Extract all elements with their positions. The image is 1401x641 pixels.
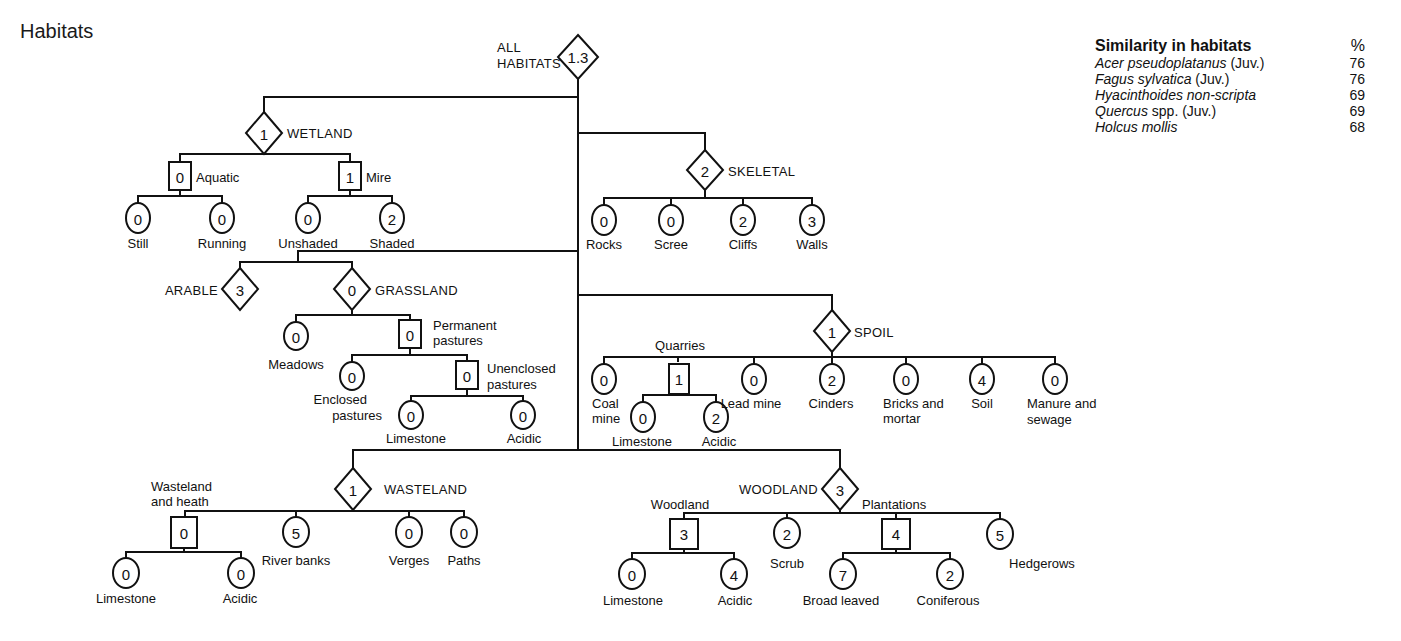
node-value: 3: [836, 482, 844, 499]
node-label: WASTELAND: [384, 482, 467, 497]
node-value: 0: [460, 525, 468, 542]
node-label: Cinders: [809, 396, 854, 411]
node-value: 5: [292, 525, 300, 542]
node-label: Acidic: [702, 434, 737, 449]
node-grass-limestone: 0Limestone: [386, 401, 446, 446]
node-value: 0: [406, 327, 414, 344]
node-value: 2: [946, 567, 954, 584]
node-value: 2: [739, 213, 747, 230]
node-label: Woodland: [651, 497, 709, 512]
node-value: 1: [349, 482, 357, 499]
node-value: 0: [122, 566, 130, 583]
node-value: 1: [260, 126, 268, 143]
node-value: 0: [628, 567, 636, 584]
node-value: 0: [902, 372, 910, 389]
node-label: Limestone: [603, 593, 663, 608]
node-label: Mire: [366, 170, 391, 185]
node-still: 0Still: [126, 203, 150, 251]
node-unshaded: 0Unshaded: [278, 203, 337, 251]
node-scree: 0Scree: [654, 205, 688, 252]
node-arable: 3 ARABLE: [165, 268, 258, 310]
node-label: GRASSLAND: [375, 283, 458, 298]
node-skeletal: 2 SKELETAL: [687, 150, 795, 190]
node-value: 0: [600, 372, 608, 389]
node-verges: 0Verges: [389, 517, 430, 568]
node-label: SPOIL: [854, 325, 894, 340]
node-label: ALL: [497, 40, 521, 55]
node-value: 0: [750, 372, 758, 389]
node-scrub: 2Scrub: [770, 518, 804, 571]
node-label: Wasteland: [151, 479, 212, 494]
node-label: Meadows: [268, 357, 324, 372]
node-label: Limestone: [386, 431, 446, 446]
node-value: 7: [839, 567, 847, 584]
node-all-habitats: 1.3 ALL HABITATS: [497, 35, 598, 79]
node-value: 2: [712, 410, 720, 427]
node-value: 0: [463, 368, 471, 385]
node-coal-mine: 0Coalmine: [592, 364, 620, 426]
node-value: 3: [808, 213, 816, 230]
node-coniferous: 2Coniferous: [917, 559, 980, 608]
node-wood-limestone: 0Limestone: [603, 559, 663, 608]
node-cinders: 2Cinders: [809, 364, 854, 411]
node-value: 3: [680, 526, 688, 543]
node-value: 0: [600, 213, 608, 230]
node-value: 2: [701, 163, 709, 180]
node-enclosed-pastures: 0 Enclosed pastures: [314, 362, 383, 423]
node-label: Plantations: [862, 497, 927, 512]
node-permanent-pastures: 0 Permanent pastures: [399, 318, 497, 348]
node-value: 4: [978, 372, 986, 389]
node-mire: 1 Mire: [339, 162, 391, 190]
node-label: mine: [592, 411, 620, 426]
node-label: Quarries: [655, 338, 705, 353]
node-label: Coal: [592, 396, 619, 411]
node-label: Manure and: [1027, 396, 1096, 411]
node-label: Cliffs: [729, 237, 758, 252]
node-wasteland: 1 WASTELAND: [335, 468, 467, 510]
node-value: 0: [304, 211, 312, 228]
node-label: HABITATS: [497, 56, 561, 71]
node-lead-mine: 0Lead mine: [721, 364, 782, 411]
node-grass-acidic: 0Acidic: [507, 401, 542, 446]
node-running: 0Running: [198, 203, 246, 251]
node-river-banks: 5River banks: [262, 517, 331, 568]
node-label: Unenclosed: [487, 361, 556, 376]
node-label: pastures: [332, 408, 382, 423]
node-label: Permanent: [433, 318, 497, 333]
node-value: 0: [348, 369, 356, 386]
node-value: 0: [667, 213, 675, 230]
node-value: 0: [237, 566, 245, 583]
node-label: WOODLAND: [739, 482, 818, 497]
node-label: Unshaded: [278, 236, 337, 251]
node-waste-limestone: 0Limestone: [96, 558, 156, 606]
node-label: Acidic: [223, 591, 258, 606]
node-wood-acidic: 4Acidic: [718, 559, 753, 608]
node-quarry-limestone: 0Limestone: [612, 402, 672, 449]
node-value: 2: [783, 526, 791, 543]
node-soil: 4Soil: [970, 364, 994, 411]
node-unenclosed-pastures: 0 Unenclosed pastures: [456, 361, 556, 392]
node-shaded: 2Shaded: [370, 203, 415, 251]
node-value: 1.3: [568, 49, 589, 66]
node-label: Verges: [389, 553, 430, 568]
node-wasteland-heath: 0 Wasteland and heath: [151, 479, 212, 548]
node-value: 0: [639, 410, 647, 427]
node-value: 0: [1051, 372, 1059, 389]
node-label: Coniferous: [917, 593, 980, 608]
node-woodland: 3 WOODLAND: [739, 468, 858, 510]
node-label: Walls: [796, 237, 828, 252]
habitat-tree: 1.3 ALL HABITATS 1 WETLAND 0 Aquatic 1 M…: [0, 0, 1401, 641]
node-label: Running: [198, 236, 246, 251]
node-label: pastures: [487, 377, 537, 392]
node-grassland: 0 GRASSLAND: [334, 268, 458, 310]
node-label: Scrub: [770, 556, 804, 571]
node-label: Shaded: [370, 236, 415, 251]
node-label: Broad leaved: [803, 593, 880, 608]
node-woodland-sub: 3 Woodland: [651, 497, 709, 549]
node-value: 0: [407, 408, 415, 425]
node-label: Aquatic: [196, 170, 240, 185]
node-cliffs: 2Cliffs: [729, 205, 758, 252]
node-value: 0: [218, 211, 226, 228]
node-value: 0: [519, 408, 527, 425]
node-aquatic: 0 Aquatic: [169, 162, 240, 190]
